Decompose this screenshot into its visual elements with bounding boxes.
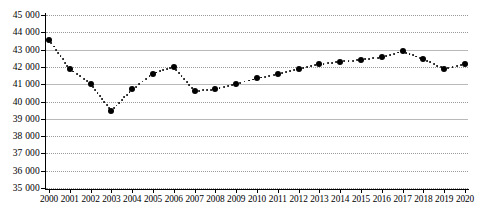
x-tick-mark bbox=[257, 189, 258, 193]
x-tick-label: 2019 bbox=[435, 194, 453, 204]
x-tick-mark bbox=[174, 189, 175, 193]
x-tick-label: 2003 bbox=[102, 194, 120, 204]
x-tick-mark bbox=[403, 189, 404, 193]
line-dot bbox=[285, 71, 287, 73]
line-dot bbox=[118, 102, 120, 104]
line-dot bbox=[447, 67, 449, 69]
data-point-marker bbox=[67, 66, 73, 72]
chart-container: 45 00044 00043 00042 00041 00040 00039 0… bbox=[0, 0, 479, 216]
gridline bbox=[46, 32, 468, 33]
y-tick-mark bbox=[41, 188, 46, 189]
y-tick-mark bbox=[41, 15, 46, 16]
data-point-marker bbox=[212, 86, 218, 92]
data-point-marker bbox=[233, 81, 239, 87]
line-dot bbox=[142, 81, 144, 83]
x-tick-mark bbox=[361, 189, 362, 193]
line-dot bbox=[409, 53, 411, 55]
y-tick-label: 39 000 bbox=[0, 114, 40, 124]
x-tick-mark bbox=[49, 189, 50, 193]
data-point-marker bbox=[46, 37, 52, 43]
line-dot bbox=[385, 55, 387, 57]
y-tick-label: 37 000 bbox=[0, 148, 40, 158]
x-tick-label: 2015 bbox=[352, 194, 370, 204]
line-dot bbox=[302, 67, 304, 69]
data-point-marker bbox=[254, 75, 260, 81]
line-dot bbox=[145, 78, 147, 80]
gridline bbox=[46, 153, 468, 154]
line-dot bbox=[343, 60, 345, 62]
data-point-marker bbox=[337, 59, 343, 65]
x-tick-label: 2005 bbox=[144, 194, 162, 204]
line-dot bbox=[269, 75, 271, 77]
x-tick-mark bbox=[465, 189, 466, 193]
line-dot bbox=[116, 105, 118, 107]
data-point-marker bbox=[129, 86, 135, 92]
data-point-marker bbox=[88, 81, 94, 87]
line-dot bbox=[206, 89, 208, 91]
x-tick-mark bbox=[215, 189, 216, 193]
line-dot bbox=[83, 78, 85, 80]
x-tick-label: 2007 bbox=[185, 194, 203, 204]
line-dot bbox=[76, 73, 78, 75]
x-tick-label: 2000 bbox=[40, 194, 58, 204]
line-dot bbox=[264, 76, 266, 78]
x-tick-mark bbox=[278, 189, 279, 193]
line-dot bbox=[198, 90, 200, 92]
line-dot bbox=[106, 104, 108, 106]
x-tick-label: 2008 bbox=[206, 194, 224, 204]
data-point-marker bbox=[108, 108, 114, 114]
x-tick-label: 2009 bbox=[227, 194, 245, 204]
line-dot bbox=[79, 75, 81, 77]
data-point-marker bbox=[358, 57, 364, 63]
gridline bbox=[46, 136, 468, 137]
y-tick-mark bbox=[41, 153, 46, 154]
line-dot bbox=[181, 75, 183, 77]
y-tick-label: 43 000 bbox=[0, 45, 40, 55]
line-dot bbox=[352, 60, 354, 62]
line-dot bbox=[281, 72, 283, 74]
line-dot bbox=[416, 56, 418, 58]
line-dot bbox=[260, 77, 262, 79]
line-dot bbox=[162, 69, 164, 71]
x-tick-mark bbox=[444, 189, 445, 193]
data-point-marker bbox=[379, 54, 385, 60]
y-tick-mark bbox=[41, 50, 46, 51]
line-dot bbox=[456, 65, 458, 67]
line-dot bbox=[166, 68, 168, 70]
x-tick-label: 2017 bbox=[393, 194, 411, 204]
line-dot bbox=[159, 70, 161, 72]
line-dot bbox=[121, 99, 123, 101]
x-tick-label: 2004 bbox=[123, 194, 141, 204]
x-tick-mark bbox=[70, 189, 71, 193]
line-dot bbox=[178, 72, 180, 74]
line-dot bbox=[126, 94, 128, 96]
x-tick-mark bbox=[236, 189, 237, 193]
line-dot bbox=[57, 52, 59, 54]
x-tick-mark bbox=[319, 189, 320, 193]
line-dot bbox=[60, 55, 62, 57]
x-tick-label: 2001 bbox=[61, 194, 79, 204]
x-tick-mark bbox=[111, 189, 112, 193]
x-tick-mark bbox=[423, 189, 424, 193]
data-point-marker bbox=[316, 61, 322, 67]
gridline bbox=[46, 119, 468, 120]
x-tick-mark bbox=[299, 189, 300, 193]
data-point-marker bbox=[462, 61, 468, 67]
data-point-marker bbox=[192, 88, 198, 94]
x-tick-mark bbox=[91, 189, 92, 193]
line-dot bbox=[101, 98, 103, 100]
line-dot bbox=[327, 62, 329, 64]
line-dot bbox=[94, 89, 96, 91]
data-point-marker bbox=[441, 66, 447, 72]
line-dot bbox=[62, 59, 64, 61]
line-dot bbox=[306, 66, 308, 68]
y-tick-mark bbox=[41, 32, 46, 33]
x-tick-label: 2013 bbox=[310, 194, 328, 204]
line-dot bbox=[310, 65, 312, 67]
line-dot bbox=[323, 63, 325, 65]
line-dot bbox=[53, 46, 55, 48]
gridline bbox=[46, 67, 468, 68]
x-tick-label: 2018 bbox=[414, 194, 432, 204]
line-dot bbox=[72, 71, 74, 73]
gridline bbox=[46, 84, 468, 85]
